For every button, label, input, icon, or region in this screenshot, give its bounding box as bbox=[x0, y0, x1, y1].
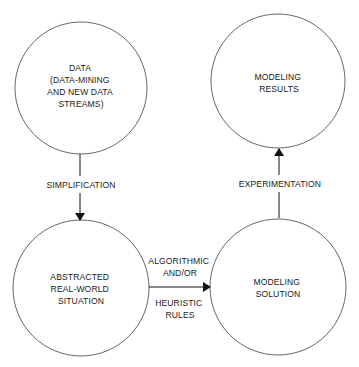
node-abstracted-line-2: REAL-WORLD bbox=[51, 284, 109, 294]
node-modeling-solution-circle bbox=[210, 219, 346, 355]
node-data-line-3: AND NEW DATA bbox=[47, 87, 113, 97]
edge-label-and-or: AND/OR bbox=[163, 268, 197, 278]
node-modeling-results-line-1: MODELING bbox=[254, 72, 301, 82]
node-abstracted-line-1: ABSTRACTED bbox=[50, 272, 109, 282]
node-modeling-solution: MODELING SOLUTION bbox=[210, 219, 346, 355]
edge-label-rules: RULES bbox=[165, 310, 194, 320]
edge-experimentation-label: EXPERIMENTATION bbox=[239, 179, 321, 189]
edge-label-algorithmic: ALGORITHMIC bbox=[148, 256, 209, 266]
node-modeling-results-line-2: RESULTS bbox=[259, 84, 299, 94]
node-modeling-results: MODELING RESULTS bbox=[211, 14, 345, 148]
edge-algorithmic-label-above: ALGORITHMIC AND/OR bbox=[148, 256, 211, 278]
node-modeling-solution-line-2: SOLUTION bbox=[256, 289, 301, 299]
node-data-line-1: DATA bbox=[69, 63, 91, 73]
node-data-line-2: (DATA-MINING bbox=[50, 75, 110, 85]
edge-heuristic-label-below: HEURISTIC RULES bbox=[155, 298, 205, 320]
edge-simplification-label: SIMPLIFICATION bbox=[46, 180, 115, 190]
node-data-line-4: STREAMS) bbox=[58, 99, 103, 109]
node-data: DATA (DATA-MINING AND NEW DATA STREAMS) bbox=[15, 22, 147, 154]
modeling-process-diagram: DATA (DATA-MINING AND NEW DATA STREAMS) … bbox=[0, 0, 359, 367]
node-abstracted: ABSTRACTED REAL-WORLD SITUATION bbox=[13, 220, 149, 356]
edge-simplification: SIMPLIFICATION bbox=[46, 154, 115, 220]
node-abstracted-line-3: SITUATION bbox=[58, 296, 104, 306]
node-abstracted-label: ABSTRACTED REAL-WORLD SITUATION bbox=[50, 272, 111, 306]
edge-label-heuristic: HEURISTIC bbox=[155, 298, 202, 308]
edge-experimentation: EXPERIMENTATION bbox=[239, 149, 321, 218]
edge-algorithmic-heuristic: ALGORITHMIC AND/OR HEURISTIC RULES bbox=[148, 256, 211, 320]
node-modeling-solution-line-1: MODELING bbox=[253, 277, 300, 287]
